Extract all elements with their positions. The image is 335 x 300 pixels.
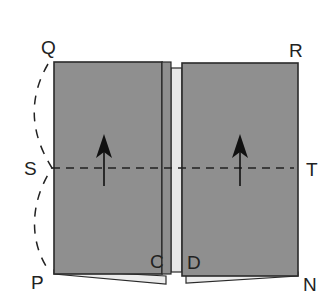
center-strip — [171, 68, 182, 272]
label-d: D — [187, 252, 201, 273]
label-p: P — [31, 272, 44, 293]
label-t: T — [306, 159, 318, 180]
label-c: C — [150, 251, 164, 272]
label-s: S — [24, 158, 37, 179]
folding-diagram: Q R S T P N C D — [0, 0, 335, 300]
label-r: R — [289, 40, 303, 61]
fold-arc-left — [34, 64, 52, 272]
label-n: N — [303, 274, 317, 295]
label-q: Q — [41, 37, 56, 58]
